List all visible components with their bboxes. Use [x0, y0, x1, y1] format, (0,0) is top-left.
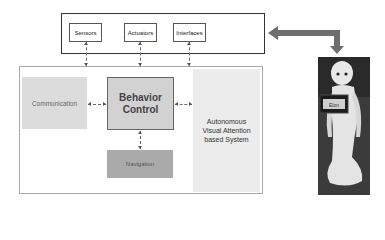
- humanoid-robot-icon: Elon: [318, 57, 370, 195]
- svg-text:Elon: Elon: [329, 102, 339, 108]
- robot-image: Elon: [318, 57, 370, 195]
- big-arrow-icon: [268, 26, 344, 54]
